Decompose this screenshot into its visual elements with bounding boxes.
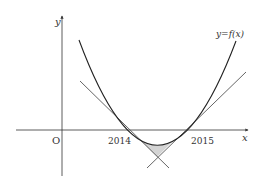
x-axis-label: x bbox=[242, 132, 248, 143]
tangent-line-left bbox=[80, 81, 169, 168]
origin-label: O bbox=[52, 135, 60, 146]
root-label-2014: 2014 bbox=[108, 136, 131, 146]
curve-label: y=f(x) bbox=[215, 29, 245, 39]
parabola-curve bbox=[79, 40, 236, 145]
y-axis-label: y bbox=[54, 16, 61, 27]
root-label-2015: 2015 bbox=[191, 136, 214, 146]
function-diagram: y x O 2014 2015 y=f(x) bbox=[0, 0, 263, 184]
